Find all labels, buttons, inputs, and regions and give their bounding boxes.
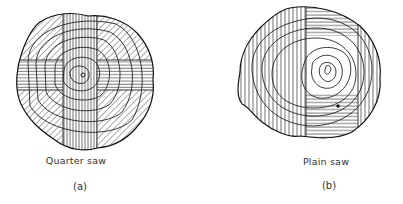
caption-quarter-saw: Quarter saw	[46, 155, 106, 166]
sublabel-b: (b)	[322, 180, 336, 191]
quarter-saw-log-diagram	[0, 0, 200, 204]
caption-plain-saw: Plain saw	[303, 156, 349, 167]
sublabel-a: (a)	[73, 181, 87, 192]
plain-saw-log-diagram	[200, 0, 403, 204]
knot-mark	[336, 104, 340, 108]
figure-quarter-saw: Quarter saw (a)	[0, 0, 200, 204]
figure-plain-saw: Plain saw (b)	[200, 0, 403, 204]
